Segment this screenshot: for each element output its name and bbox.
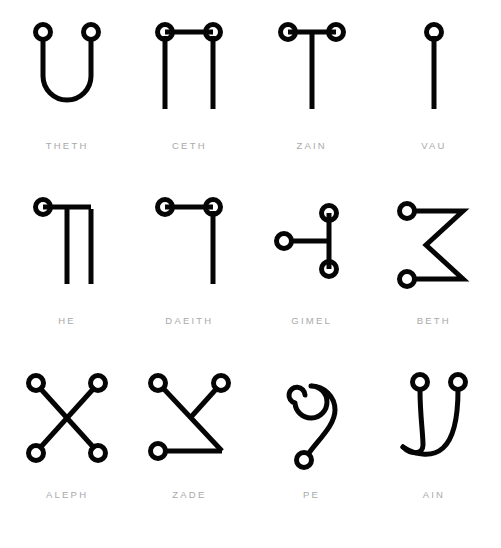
glyph-label-ceth: CETH: [172, 140, 207, 151]
glyph-label-aleph: ALEPH: [46, 489, 88, 500]
glyph-label-zain: ZAIN: [296, 140, 326, 151]
glyph-cell-aleph[interactable]: ALEPH: [6, 363, 128, 538]
glyph-cell-vau[interactable]: VAU: [373, 14, 495, 189]
glyph-label-he: HE: [58, 315, 76, 326]
glyph-cell-ain[interactable]: AIN: [373, 363, 495, 538]
glyph-label-vau: VAU: [421, 140, 446, 151]
glyph-cell-daeith[interactable]: DAEITH: [128, 189, 250, 364]
glyph-label-beth: BETH: [417, 315, 451, 326]
glyph-pe-icon: [257, 363, 367, 483]
glyph-daeith-icon: [134, 189, 244, 309]
glyph-label-ain: AIN: [423, 489, 445, 500]
glyph-theth-icon: [12, 14, 122, 134]
glyph-zade-icon: [134, 363, 244, 483]
glyph-cell-zade[interactable]: ZADE: [128, 363, 250, 538]
glyph-label-pe: PE: [303, 489, 320, 500]
glyph-cell-ceth[interactable]: CETH: [128, 14, 250, 189]
glyph-label-theth: THETH: [46, 140, 89, 151]
glyph-cell-theth[interactable]: THETH: [6, 14, 128, 189]
glyph-vau-icon: [379, 14, 489, 134]
glyph-aleph-icon: [12, 363, 122, 483]
glyph-cell-pe[interactable]: PE: [251, 363, 373, 538]
glyph-ain-icon: [379, 363, 489, 483]
glyph-cell-gimel[interactable]: GIMEL: [251, 189, 373, 364]
glyph-cell-zain[interactable]: ZAIN: [251, 14, 373, 189]
glyph-beth-icon: [379, 189, 489, 309]
glyph-zain-icon: [257, 14, 367, 134]
glyph-cell-beth[interactable]: BETH: [373, 189, 495, 364]
glyph-cell-he[interactable]: HE: [6, 189, 128, 364]
glyph-ceth-icon: [134, 14, 244, 134]
glyph-grid: THETH CETH ZAIN VAU: [0, 0, 501, 548]
glyph-he-icon: [12, 189, 122, 309]
glyph-label-zade: ZADE: [172, 489, 206, 500]
glyph-gimel-icon: [257, 189, 367, 309]
glyph-label-gimel: GIMEL: [291, 315, 332, 326]
glyph-label-daeith: DAEITH: [165, 315, 213, 326]
